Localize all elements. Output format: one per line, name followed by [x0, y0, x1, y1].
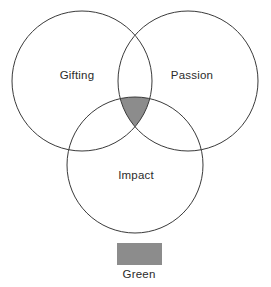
venn-diagram-canvas: Gifting Passion Impact Green: [0, 0, 271, 287]
venn-diagram: Gifting Passion Impact Green: [0, 0, 271, 287]
circle-label-impact: Impact: [118, 169, 154, 181]
circle-label-passion: Passion: [171, 69, 213, 81]
legend-swatch-green: [117, 243, 162, 265]
circle-label-gifting: Gifting: [60, 69, 95, 81]
legend: Green: [117, 243, 162, 280]
legend-label-green: Green: [123, 268, 156, 280]
